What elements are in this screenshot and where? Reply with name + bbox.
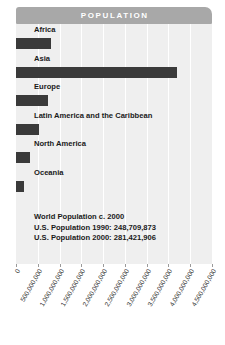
bar-label: North America: [34, 140, 86, 148]
annotation-block: World Population c. 2000U.S. Population …: [34, 212, 156, 244]
bar-label: Oceania: [34, 169, 64, 177]
bar: [16, 38, 51, 49]
bar: [16, 95, 48, 106]
axis-tick: [60, 264, 61, 267]
bar-label: Europe: [34, 83, 60, 91]
axis-tick: [38, 264, 39, 267]
axis-tick: [168, 264, 169, 267]
chart-header-bar: POPULATION: [16, 7, 212, 24]
bar: [16, 124, 39, 135]
axis-tick: [81, 264, 82, 267]
axis-tick-label: 4,500,000,000: [191, 268, 218, 308]
bar-label: Latin America and the Caribbean: [34, 112, 152, 120]
bar: [16, 67, 177, 78]
plot-area: AfricaAsiaEuropeLatin America and the Ca…: [16, 24, 212, 264]
axis-tick: [125, 264, 126, 267]
annotation-line: U.S. Population 2000: 281,421,906: [34, 233, 156, 244]
annotation-line: World Population c. 2000: [34, 212, 156, 223]
axis-tick: [16, 264, 17, 267]
bar: [16, 181, 24, 192]
axis-tick-label: 500,000,000: [19, 268, 43, 303]
axis-tick: [190, 264, 191, 267]
annotation-line: U.S. Population 1990: 248,709,873: [34, 223, 156, 234]
bar: [16, 152, 30, 163]
bar-label: Africa: [34, 26, 56, 34]
page-title: POPULATION: [16, 12, 212, 20]
axis-tick: [147, 264, 148, 267]
bar-label: Asia: [34, 55, 50, 63]
population-chart-figure: POPULATION AfricaAsiaEuropeLatin America…: [0, 0, 225, 345]
axis-tick: [103, 264, 104, 267]
axis-tick-label: 0: [14, 268, 22, 274]
axis-tick: [212, 264, 213, 267]
x-axis: 0500,000,0001,000,000,0001,500,000,0002,…: [16, 264, 212, 345]
